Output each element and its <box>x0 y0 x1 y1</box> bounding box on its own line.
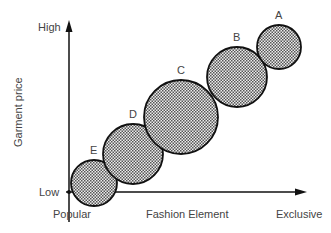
x-axis-left-label: Popular <box>53 208 91 220</box>
y-axis-low-label: Low <box>39 186 59 198</box>
circle-label-d: D <box>129 108 137 120</box>
circle-c <box>144 80 218 154</box>
circle-label-e: E <box>90 144 97 156</box>
arrow-up-icon <box>66 20 73 32</box>
diagram-canvas <box>0 0 331 233</box>
circle-a <box>257 25 301 69</box>
y-axis-title: Garment price <box>12 77 24 147</box>
circle-label-b: B <box>233 31 240 43</box>
y-axis-high-label: High <box>38 21 61 33</box>
circle-label-c: C <box>177 64 185 76</box>
arrow-right-icon <box>295 189 307 196</box>
segment-circles <box>71 25 301 206</box>
x-axis-right-label: Exclusive <box>276 208 322 220</box>
circle-label-a: A <box>275 9 282 21</box>
x-axis-title: Fashion Element <box>146 208 229 220</box>
